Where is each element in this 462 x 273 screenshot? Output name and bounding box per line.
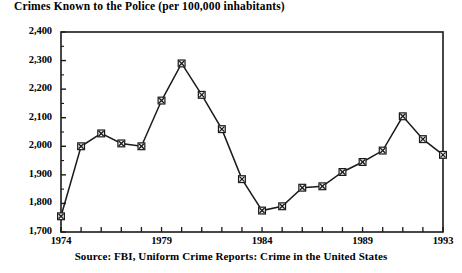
x-axis-tick-label: 1989 [341, 235, 385, 246]
y-axis-tick-label: 2,000 [6, 139, 52, 150]
data-point-marker [379, 147, 386, 154]
data-point-marker [138, 143, 145, 150]
source-note: Source: FBI, Uniform Crime Reports: Crim… [0, 250, 462, 262]
y-axis-tick-label: 2,400 [6, 25, 52, 36]
y-axis-tick-label: 2,100 [6, 111, 52, 122]
x-axis-tick-label: 1979 [140, 235, 184, 246]
data-point-marker [299, 184, 306, 191]
data-point-marker [118, 140, 125, 147]
plot-area: 2,4002,3002,2002,1002,0001,9001,8001,700… [0, 0, 462, 250]
data-point-marker [218, 126, 225, 133]
data-point-marker [399, 113, 406, 120]
crime-rate-line-chart: Crimes Known to the Police (per 100,000 … [0, 0, 462, 273]
data-point-marker [239, 176, 246, 183]
data-point-marker [178, 60, 185, 67]
y-axis-tick-label: 2,300 [6, 54, 52, 65]
y-axis-tick-label: 2,200 [6, 82, 52, 93]
data-point-marker [58, 213, 65, 220]
x-axis-tick-label: 1993 [421, 235, 462, 246]
x-axis-tick-label: 1974 [39, 235, 83, 246]
data-point-marker [259, 207, 266, 214]
data-point-marker [98, 130, 105, 137]
data-point-marker [198, 91, 205, 98]
data-point-marker [279, 203, 286, 210]
y-axis-tick-label: 1,800 [6, 196, 52, 207]
plot-frame [61, 32, 443, 232]
plot-svg [0, 0, 462, 250]
data-point-marker [419, 136, 426, 143]
data-point-marker [339, 169, 346, 176]
data-point-marker [158, 97, 165, 104]
data-point-marker [359, 159, 366, 166]
x-axis-tick-label: 1984 [240, 235, 284, 246]
data-point-marker [78, 143, 85, 150]
y-axis-tick-label: 1,900 [6, 168, 52, 179]
data-point-marker [319, 183, 326, 190]
data-point-marker [440, 151, 447, 158]
